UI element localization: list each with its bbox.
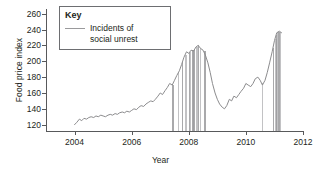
y-tick-label: 180 <box>27 72 41 82</box>
legend-label-line2: social unrest <box>90 34 138 44</box>
x-tick-label: 2010 <box>236 137 255 147</box>
y-tick-label: 240 <box>27 25 41 35</box>
x-tick-label: 2004 <box>65 137 84 147</box>
food-price-index-chart: Food price index Year 120140160180200220… <box>0 0 321 171</box>
x-tick-label: 2012 <box>294 137 313 147</box>
legend-label-line1: Incidents of <box>90 23 133 33</box>
legend-line-swatch-icon <box>65 23 85 33</box>
y-tick-label: 260 <box>27 9 41 19</box>
legend-entry-label: Incidents of social unrest <box>90 23 138 44</box>
y-tick-label: 220 <box>27 40 41 50</box>
y-axis-title: Food price index <box>14 10 24 130</box>
y-tick-label: 120 <box>27 120 41 130</box>
x-tick-label: 2008 <box>179 137 198 147</box>
x-tick-label: 2006 <box>122 137 141 147</box>
legend-entry: Incidents of social unrest <box>65 23 165 44</box>
chart-legend: Key Incidents of social unrest <box>59 6 171 50</box>
x-tick-mark <box>303 131 304 135</box>
y-tick-label: 200 <box>27 56 41 66</box>
y-tick-label: 140 <box>27 104 41 114</box>
x-axis-title: Year <box>0 155 321 165</box>
legend-title: Key <box>65 10 165 21</box>
y-tick-label: 160 <box>27 88 41 98</box>
